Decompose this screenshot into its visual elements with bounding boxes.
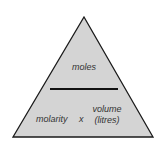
litres-unit-label: (litres) <box>91 115 123 125</box>
triangle-shape <box>0 0 162 149</box>
formula-triangle-diagram: moles molarity x volume (litres) <box>0 0 162 149</box>
moles-label: moles <box>72 62 96 72</box>
volume-label: volume <box>91 104 123 114</box>
molarity-label: molarity <box>36 114 68 124</box>
multiply-operator: x <box>79 114 84 124</box>
